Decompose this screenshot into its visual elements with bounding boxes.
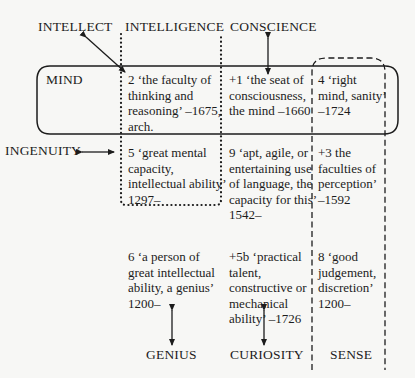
- label-curiosity: CURIOSITY: [230, 347, 304, 363]
- label-conscience: CONSCIENCE: [230, 19, 317, 35]
- sense-4-definition: 4 ‘right mind, sanity’ –1724: [318, 72, 387, 119]
- sense-2-definition: 2 ‘the faculty of thinking and reasoning…: [128, 72, 221, 134]
- label-genius: GENIUS: [146, 347, 197, 363]
- label-intellect: INTELLECT: [38, 19, 113, 35]
- sense-plus3-definition: +3 the faculties of perception’ –1592: [318, 145, 377, 207]
- label-sense: SENSE: [330, 347, 372, 363]
- label-ingenuity: INGENUITY: [5, 143, 81, 159]
- sense-5-definition: 5 ‘great mental capacity, intellectual a…: [128, 145, 227, 207]
- sense-8-definition: 8 ‘good judgement, discretion’ 1200–: [318, 249, 376, 311]
- sense-plus1-definition: +1 ‘the seat of consciousness, the mind …: [229, 72, 311, 119]
- sense-9-definition: 9 ‘apt, agile, or entertaining use of la…: [229, 145, 317, 223]
- sense-6-definition: 6 ‘a person of great intellectual abilit…: [128, 249, 215, 311]
- sense-plus5b-definition: +5b ‘practical talent, constructive or m…: [229, 249, 307, 327]
- label-intelligence: INTELLIGENCE: [125, 19, 224, 35]
- label-mind: MIND: [46, 72, 83, 88]
